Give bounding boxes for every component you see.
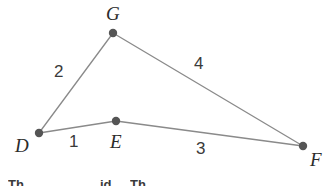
cut-off-text-fragment-2: id bbox=[100, 178, 112, 186]
segment-label-2: 2 bbox=[54, 63, 63, 80]
figure-canvas bbox=[0, 0, 325, 186]
vertex-point-d bbox=[35, 129, 43, 137]
segment-DG bbox=[39, 33, 113, 133]
vertex-point-e bbox=[112, 117, 120, 125]
segment-label-3: 3 bbox=[196, 140, 205, 157]
segment-label-1: 1 bbox=[69, 133, 78, 150]
vertex-label-g: G bbox=[106, 4, 120, 23]
vertex-label-d: D bbox=[15, 136, 29, 155]
geometry-figure: DEGF1234ThidTh bbox=[0, 0, 325, 186]
vertex-label-e: E bbox=[110, 132, 122, 151]
segments-group bbox=[39, 33, 303, 146]
cut-off-text-fragment-1: Th bbox=[8, 178, 24, 186]
cut-off-text-fragment-3: Th bbox=[130, 178, 146, 186]
vertex-point-f bbox=[299, 142, 307, 150]
segment-label-4: 4 bbox=[194, 55, 203, 72]
segment-EF bbox=[116, 121, 303, 146]
vertex-label-f: F bbox=[310, 150, 322, 169]
segment-GF bbox=[113, 33, 303, 146]
vertex-point-g bbox=[109, 29, 117, 37]
